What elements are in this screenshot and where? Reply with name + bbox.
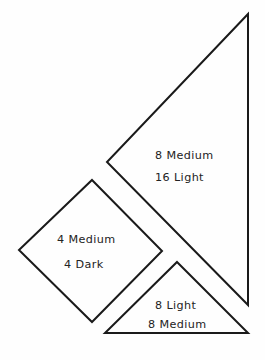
- diamond-medium-label: 4 Medium: [57, 233, 116, 246]
- cutting-diagram: 8 Medium 16 Light 4 Medium 4 Dark 8 Ligh…: [0, 0, 265, 360]
- large-triangle-medium-label: 8 Medium: [155, 149, 214, 162]
- diamond-dark-label: 4 Dark: [64, 258, 104, 271]
- large-triangle-light-label: 16 Light: [155, 171, 204, 184]
- small-triangle-light-label: 8 Light: [155, 299, 197, 312]
- small-triangle-medium-label: 8 Medium: [148, 318, 207, 331]
- diagram-canvas: 8 Medium 16 Light 4 Medium 4 Dark 8 Ligh…: [0, 0, 265, 360]
